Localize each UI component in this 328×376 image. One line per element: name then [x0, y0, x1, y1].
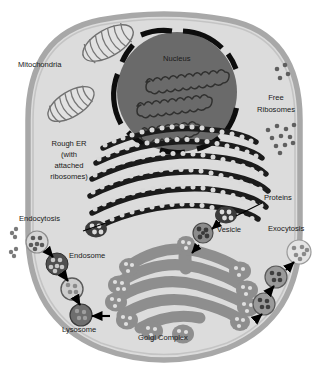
- label-mitochondria: Mitochondria: [18, 60, 62, 69]
- label-vesicle: Vesicle: [217, 225, 241, 234]
- label-rough-er-line1: Rough ER: [51, 139, 87, 148]
- protein-cluster: [215, 207, 237, 224]
- label-free-ribosomes-line1: Free: [268, 93, 284, 102]
- transport-vesicle: [193, 223, 213, 243]
- protein-vesicle-body: [215, 207, 237, 224]
- label-exocytosis: Exocytosis: [268, 224, 304, 233]
- label-rough-er-line3: attached: [54, 161, 83, 170]
- fusing-vesicle: [287, 240, 311, 264]
- cell-diagram-canvas: Mitochondria Nucleus Free Ribosomes Roug…: [0, 0, 328, 376]
- secretory-vesicle-lower: [253, 293, 275, 315]
- label-golgi-complex: Golgi Complex: [138, 333, 188, 342]
- golgi-vesicle: [105, 293, 127, 312]
- label-proteins: Proteins: [264, 193, 292, 202]
- golgi-cis-vesicle: [177, 236, 195, 252]
- label-rough-er-line4: ribosomes): [50, 172, 88, 181]
- label-nucleus: Nucleus: [163, 54, 191, 63]
- label-rough-er-line2: (with: [61, 150, 77, 159]
- endocytic-vesicle: [26, 231, 48, 253]
- golgi-vesicle: [119, 258, 139, 276]
- lysosome: [70, 304, 92, 326]
- golgi-vesicle: [229, 262, 251, 281]
- golgi-vesicle: [230, 313, 250, 331]
- label-lysosome: Lysosome: [62, 325, 96, 334]
- golgi-vesicle: [108, 276, 130, 295]
- cell-diagram: Mitochondria Nucleus Free Ribosomes Roug…: [0, 0, 328, 376]
- golgi-vesicle: [116, 311, 138, 330]
- extracellular-particles: [9, 227, 18, 258]
- golgi-vesicle: [236, 281, 258, 300]
- endosome: [46, 253, 68, 275]
- secretory-vesicle-upper: [265, 266, 287, 288]
- late-endosome: [61, 278, 83, 300]
- label-free-ribosomes-line2: Ribosomes: [257, 105, 295, 114]
- label-endocytosis: Endocytosis: [19, 214, 60, 223]
- label-endosome: Endosome: [69, 251, 105, 260]
